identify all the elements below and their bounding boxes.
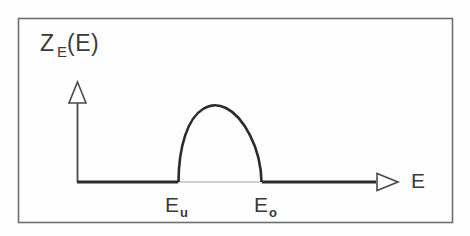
tick-label-upper-subscript: o <box>269 205 277 220</box>
dos-curve <box>179 105 262 182</box>
y-axis-arrow-icon <box>69 82 86 103</box>
tick-label-lower-base: E <box>165 193 179 216</box>
x-axis-label: E <box>411 169 425 192</box>
tick-label-lower-subscript: u <box>180 205 188 220</box>
y-axis-label-subscript: E <box>57 43 67 60</box>
tick-label-upper-base: E <box>254 193 268 216</box>
density-of-states-figure: Z E (E) E E u E o <box>0 0 470 236</box>
figure-container: Z E (E) E E u E o <box>0 0 470 236</box>
y-axis-label-argument: (E) <box>67 30 99 56</box>
y-axis-label-base: Z <box>40 30 55 56</box>
x-axis-arrow-icon <box>377 174 398 191</box>
